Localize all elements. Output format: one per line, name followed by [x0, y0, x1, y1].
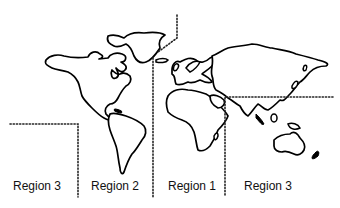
asia [211, 44, 327, 116]
region-label-3-west: Region 3 [13, 180, 61, 192]
sumatra [256, 114, 264, 125]
new-zealand [312, 151, 319, 159]
iceland [156, 59, 168, 63]
madagascar [214, 133, 218, 140]
british-isles [173, 64, 178, 71]
region-label-1: Region 1 [168, 180, 216, 192]
new-guinea [288, 123, 300, 129]
south-america [109, 113, 146, 173]
world-map [0, 0, 340, 208]
region-label-3-east: Region 3 [244, 180, 292, 192]
kamchatka [303, 65, 307, 71]
borneo [271, 114, 277, 122]
australia [274, 132, 305, 154]
region-label-2: Region 2 [91, 180, 139, 192]
